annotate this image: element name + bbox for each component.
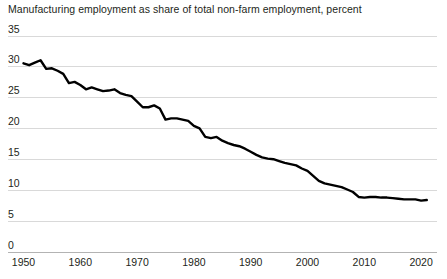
x-axis-tick-1970: 1970 xyxy=(125,256,148,268)
x-axis-tick-1980: 1980 xyxy=(182,256,205,268)
line-chart-svg xyxy=(0,0,447,279)
y-axis-tick-25: 25 xyxy=(8,84,20,96)
data-series-group xyxy=(24,60,427,200)
data-line-0 xyxy=(24,60,427,200)
gridlines-group xyxy=(8,36,438,253)
y-axis-tick-35: 35 xyxy=(8,23,20,35)
y-axis-tick-5: 5 xyxy=(8,208,14,220)
y-axis-tick-30: 30 xyxy=(8,53,20,65)
plot-area xyxy=(0,0,447,279)
x-axis-tick-2010: 2010 xyxy=(353,256,376,268)
y-axis-tick-10: 10 xyxy=(8,177,20,189)
x-axis-tick-1960: 1960 xyxy=(69,256,92,268)
x-axis-tick-2000: 2000 xyxy=(296,256,319,268)
y-axis-tick-0: 0 xyxy=(8,239,14,251)
y-axis-tick-20: 20 xyxy=(8,115,20,127)
x-axis-tick-1990: 1990 xyxy=(239,256,262,268)
x-axis-tick-1950: 1950 xyxy=(12,256,35,268)
x-axis-tick-2020: 2020 xyxy=(409,256,432,268)
chart-container: Manufacturing employment as share of tot… xyxy=(0,0,447,279)
y-axis-tick-15: 15 xyxy=(8,146,20,158)
